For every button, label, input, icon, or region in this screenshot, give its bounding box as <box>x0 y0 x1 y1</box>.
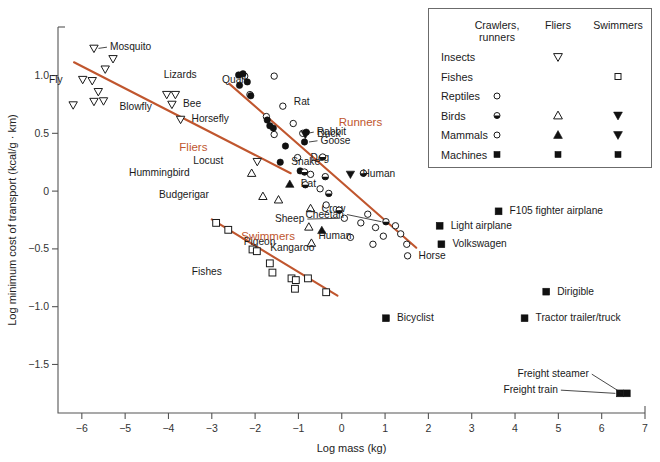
legend-row-label-fishes: Fishes <box>441 71 473 83</box>
data-point-label: Mosquito <box>110 41 152 52</box>
label-leader-line <box>592 374 623 393</box>
data-point-label: Snake <box>291 156 320 167</box>
label-leader-line <box>561 390 616 393</box>
data-point-marker <box>495 208 502 215</box>
data-point-marker <box>282 143 288 149</box>
data-point-marker <box>280 103 286 109</box>
x-tick-label: 1 <box>382 422 388 434</box>
label-leader-line <box>347 215 382 222</box>
data-point-marker <box>383 315 390 322</box>
data-point-marker <box>543 288 550 295</box>
data-point-marker <box>271 73 277 79</box>
legend-marker-birds-fliers <box>554 111 563 119</box>
data-point-marker <box>213 219 220 226</box>
x-axis-title: Log mass (kg) <box>317 442 387 454</box>
data-point-marker <box>109 56 117 63</box>
data-point-label: Sheep <box>275 213 305 224</box>
x-tick-label: −1 <box>292 422 304 434</box>
data-point-marker <box>383 219 389 225</box>
x-tick-label: −5 <box>119 422 131 434</box>
data-point-label: Bee <box>183 98 201 109</box>
data-point-marker <box>319 154 325 160</box>
data-point-marker <box>94 89 102 96</box>
data-point-marker <box>372 224 378 230</box>
data-point-marker <box>292 277 299 284</box>
data-point-marker <box>392 223 398 229</box>
data-point-marker <box>88 78 96 85</box>
data-point-marker <box>370 241 376 247</box>
data-point-label: Fishes <box>192 266 222 277</box>
data-point-marker <box>240 71 246 77</box>
data-point-marker <box>90 98 98 105</box>
x-tick-label: −3 <box>206 422 218 434</box>
y-tick-label: 0 <box>43 185 49 197</box>
data-point-marker <box>323 289 330 296</box>
data-point-marker <box>290 120 296 126</box>
y-tick-label: 0.5 <box>34 127 49 139</box>
data-point-marker <box>307 171 313 177</box>
data-point-marker <box>168 101 176 108</box>
data-point-marker <box>380 233 386 239</box>
data-point-marker <box>317 186 323 192</box>
data-point-marker <box>346 171 354 178</box>
data-point-label: Bicyclist <box>397 312 434 323</box>
data-point-label: Hummingbird <box>129 167 190 178</box>
data-point-marker <box>78 76 86 83</box>
y-tick-label: 1.0 <box>34 69 49 81</box>
x-tick-label: 6 <box>599 422 605 434</box>
data-point-label: Horsefly <box>192 113 230 124</box>
data-point-marker <box>90 45 98 52</box>
legend-marker-machines-fliers <box>555 152 561 158</box>
data-point-marker <box>274 196 282 203</box>
data-point-marker <box>292 285 299 292</box>
legend-marker-mammals-fliers <box>554 131 563 139</box>
legend-col-header: Fliers <box>545 19 571 31</box>
data-point-marker <box>305 275 312 282</box>
legend-row-label-birds: Birds <box>441 110 466 122</box>
data-point-marker <box>623 390 630 397</box>
data-point-marker <box>365 211 371 217</box>
data-point-label: Human <box>318 230 351 241</box>
data-point-marker <box>521 315 528 322</box>
data-point-marker <box>163 91 171 98</box>
data-point-label: Dirigible <box>557 286 594 297</box>
data-point-label: Lizards <box>164 69 197 80</box>
data-point-marker <box>397 231 403 237</box>
data-point-marker <box>271 131 277 137</box>
legend-row-label-mammals: Mammals <box>441 129 488 141</box>
data-point-label: Budgerigar <box>159 189 209 200</box>
legend-marker-mammals-swimmers <box>614 132 623 140</box>
data-point-marker <box>176 116 184 123</box>
x-tick-label: −2 <box>249 422 261 434</box>
data-point-marker <box>305 223 313 230</box>
data-point-label: Cheetah <box>305 209 344 220</box>
data-point-marker <box>264 117 270 123</box>
legend-marker-machines-crawlers <box>494 152 500 158</box>
data-point-label: Horse <box>419 250 447 261</box>
data-point-label: Kangaroo <box>270 242 315 253</box>
legend-marker-mammals-crawlers <box>494 132 500 138</box>
data-point-marker <box>270 125 276 131</box>
chart-root: 1.00.50−0.5−1.0−1.5−6−5−4−3−2−101234567L… <box>0 0 660 462</box>
label-leader-line <box>98 47 107 48</box>
data-point-label: Freight train <box>504 384 558 395</box>
group-label-runners: Runners <box>339 116 383 128</box>
data-point-label: Locust <box>193 155 223 166</box>
data-point-marker <box>358 220 364 226</box>
data-point-marker <box>171 91 179 98</box>
label-leader-line <box>309 141 318 142</box>
y-tick-label: −1.5 <box>28 358 49 370</box>
data-point-marker <box>301 169 307 175</box>
legend-marker-reptiles-crawlers <box>494 93 500 99</box>
y-tick-label: −1.0 <box>28 300 49 312</box>
group-label-swimmers: Swimmers <box>241 230 295 242</box>
legend-marker-birds-swimmers <box>614 112 623 120</box>
x-tick-label: −4 <box>162 422 174 434</box>
data-point-label: Tractor trailer/truck <box>536 312 622 323</box>
series-machines: F105 fighter airplaneLight airplaneVolks… <box>383 205 631 396</box>
x-tick-label: 0 <box>339 422 345 434</box>
data-point-marker <box>277 159 283 165</box>
legend-row-label-machines: Machines <box>441 149 488 161</box>
data-point-label: F105 fighter airplane <box>510 205 604 216</box>
group-label-fliers: Fliers <box>179 141 207 153</box>
